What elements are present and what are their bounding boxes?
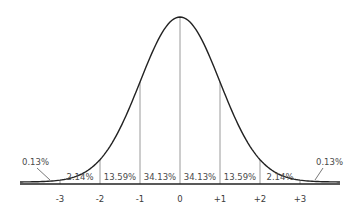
- band-label: 2.14%: [266, 172, 293, 182]
- tick-label: +2: [254, 194, 267, 204]
- tick-label: -2: [96, 194, 104, 204]
- left-leader-line: [37, 168, 50, 180]
- tick-label: 0: [177, 194, 182, 204]
- band-label: 34.13%: [184, 172, 216, 182]
- tick-label: +1: [214, 194, 227, 204]
- left-tail-label: 0.13%: [22, 157, 49, 167]
- sigma-divider-lines: [60, 17, 300, 184]
- band-label: 13.59%: [224, 172, 256, 182]
- band-label: 13.59%: [104, 172, 136, 182]
- right-leader-line: [315, 168, 323, 180]
- normal-distribution-chart: 2.14%13.59%34.13%34.13%13.59%2.14% -3-2-…: [0, 0, 356, 212]
- band-label: 2.14%: [66, 172, 93, 182]
- tick-label: -3: [56, 194, 64, 204]
- tick-label: -1: [136, 194, 144, 204]
- right-tail-label: 0.13%: [316, 157, 343, 167]
- x-axis-tick-labels: -3-2-10+1+2+3: [56, 194, 307, 204]
- tick-label: +3: [294, 194, 307, 204]
- band-label: 34.13%: [144, 172, 176, 182]
